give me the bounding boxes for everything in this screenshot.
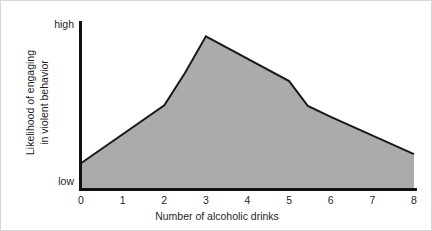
x-axis-tick-label: 1 xyxy=(113,194,133,206)
x-axis-tick-label: 0 xyxy=(71,194,91,206)
x-axis-tick-label: 6 xyxy=(321,194,341,206)
x-axis-tick-label: 4 xyxy=(238,194,258,206)
x-axis-tick-label: 5 xyxy=(279,194,299,206)
x-axis-tick-label: 3 xyxy=(196,194,216,206)
x-axis-title: Number of alcoholic drinks xyxy=(1,210,432,223)
x-axis-tick-label: 7 xyxy=(362,194,382,206)
x-axis-tick-label: 2 xyxy=(154,194,174,206)
y-axis-title: Likelihood of engaging in violent behavi… xyxy=(24,23,51,183)
chart-figure: high low 012345678 Number of alcoholic d… xyxy=(0,0,432,231)
x-axis-tick-label: 8 xyxy=(404,194,424,206)
y-axis-title-line-1: Likelihood of engaging xyxy=(24,23,38,183)
y-axis-title-line-2: in violent behavior xyxy=(37,23,51,183)
